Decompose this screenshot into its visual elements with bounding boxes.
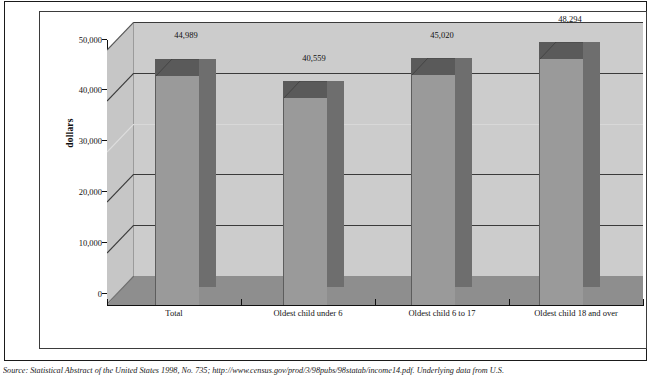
figure-inner-frame: dollars 0 10,000 20,000 30,000 40,000 50… — [39, 11, 647, 349]
bar-column — [283, 22, 327, 305]
bar-front-face — [539, 59, 583, 305]
x-tick-label-total: Total — [104, 309, 244, 318]
plot-area: 44,989 40,559 45,020 48,294 — [107, 22, 643, 327]
bar-column — [155, 22, 199, 305]
x-tick-mark — [375, 299, 376, 306]
bar-side-face — [327, 81, 344, 287]
bar-value-label: 45,020 — [407, 31, 477, 40]
x-tick-mark — [509, 299, 510, 306]
bar-value-label: 44,989 — [151, 31, 221, 40]
bar-top-face — [411, 58, 455, 76]
figure-outer-frame: dollars 0 10,000 20,000 30,000 40,000 50… — [4, 1, 647, 361]
x-tick-mark — [107, 299, 108, 306]
bar-top-face — [283, 81, 327, 99]
y-tick-label: 0 — [56, 290, 102, 299]
bar-side-face — [583, 42, 600, 287]
bar-value-label: 48,294 — [535, 15, 605, 24]
x-tick-label-6-to-17: Oldest child 6 to 17 — [372, 309, 512, 318]
bar-column — [539, 22, 583, 305]
source-citation: Source: Statistical Abstract of the Unit… — [3, 366, 653, 377]
x-tick-mark — [643, 299, 644, 306]
y-tick-label: 30,000 — [56, 137, 102, 146]
bar-side-face — [199, 59, 216, 287]
plot-left-wall — [107, 22, 134, 304]
bar-value-label: 40,559 — [279, 54, 349, 63]
x-tick-label-under-6: Oldest child under 6 — [238, 309, 378, 318]
y-tick-label: 40,000 — [56, 86, 102, 95]
bar-front-face — [283, 98, 327, 305]
y-tick-label: 10,000 — [56, 239, 102, 248]
y-axis-tick-labels: 0 10,000 20,000 30,000 40,000 50,000 — [56, 12, 102, 350]
y-tick-label: 50,000 — [56, 36, 102, 45]
bar-top-face — [155, 59, 199, 77]
wall-corner-edge — [133, 22, 134, 276]
bar-front-face — [411, 75, 455, 305]
x-tick-label-18-and-over: Oldest child 18 and over — [506, 309, 646, 318]
bar-front-face — [155, 76, 199, 305]
x-tick-mark — [241, 299, 242, 306]
bar-top-face — [539, 42, 583, 60]
bar-chart: dollars 0 10,000 20,000 30,000 40,000 50… — [40, 12, 648, 350]
y-tick-label: 20,000 — [56, 188, 102, 197]
bar-side-face — [455, 58, 472, 287]
bar-column — [411, 22, 455, 305]
